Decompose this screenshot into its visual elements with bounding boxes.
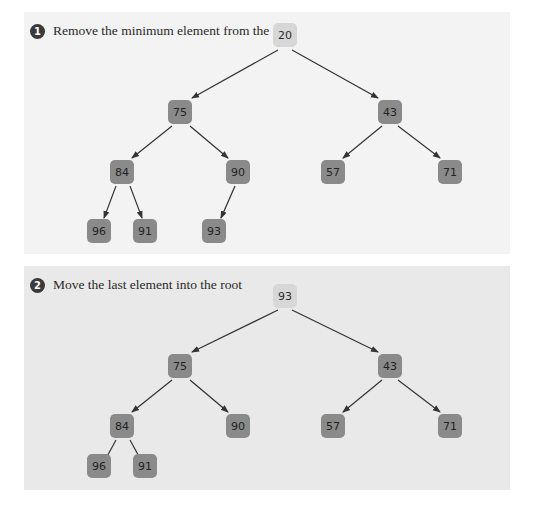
tree-edges	[24, 12, 510, 254]
heap-node: 43	[378, 100, 402, 124]
heap-node: 84	[110, 414, 134, 438]
step-2-panel: 2 Move the last element into the root 93…	[24, 266, 510, 490]
heap-node-root: 93	[273, 284, 297, 308]
heap-node-root: 20	[273, 23, 297, 47]
heap-node: 91	[133, 454, 157, 478]
heap-node: 75	[168, 100, 192, 124]
heap-node: 71	[438, 160, 462, 184]
heap-node: 96	[87, 219, 111, 243]
step-1-panel: 1 Remove the minimum element from the ro…	[24, 12, 510, 254]
heap-node: 93	[202, 219, 226, 243]
heap-node: 91	[133, 219, 157, 243]
heap-node: 71	[438, 414, 462, 438]
heap-node: 96	[87, 454, 111, 478]
heap-node: 57	[321, 160, 345, 184]
heap-node: 84	[110, 160, 134, 184]
heap-node: 90	[226, 160, 250, 184]
heap-node: 57	[321, 414, 345, 438]
heap-node: 75	[168, 354, 192, 378]
heap-node: 43	[378, 354, 402, 378]
heap-node: 90	[226, 414, 250, 438]
